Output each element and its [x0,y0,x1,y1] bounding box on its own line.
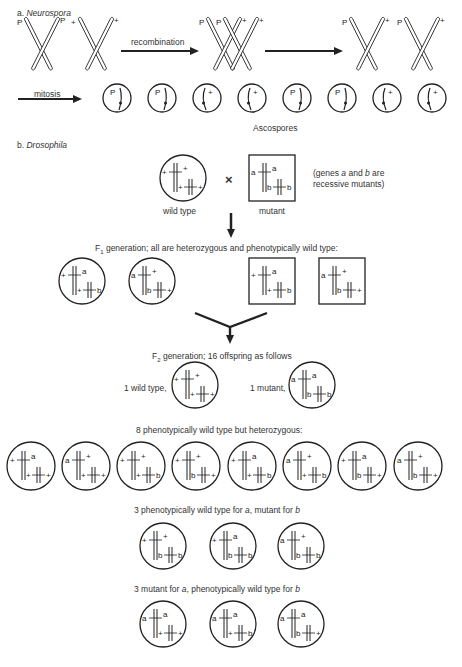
allele-b-right: b [156,471,161,480]
merge-lines [195,313,267,327]
cell-outline-circle [129,258,175,304]
f2-mutant-label: 1 mutant, [250,383,285,393]
heterozygous-individual: +ab+ [338,442,386,490]
allele-b-right: + [211,471,216,480]
parent-wild-type: ++++ [160,155,206,201]
mut-a-wt-b-individual: aa++ [140,601,186,647]
allele-a-left: a [286,456,291,465]
cell-outline-circle [278,601,324,647]
allele-b-right: + [377,471,382,480]
allele-b-right: b [287,183,292,192]
note-text: are [370,168,385,178]
heading-text: , phenotypically wild type for [186,584,295,594]
heterozygous-individual: a+b+ [394,442,442,490]
allele-b-left: b [296,551,301,560]
allele-a-left: a [321,271,326,280]
heterozygous-heading: 8 phenotypically wild type but heterozyg… [136,425,302,435]
allele-b-right: + [101,471,106,480]
allele-b-left: + [26,471,31,480]
cell-outline-circle [172,442,220,490]
allele-b-left: b [337,286,342,295]
allele-a-right: a [233,532,238,541]
allele-a-left: a [280,614,285,623]
cell-outline-circle [278,523,324,569]
drosophila-diagram: ++++aabb+a+ba+b++a+ba+b+++++aabb+a++a+++… [0,0,462,667]
f1-individual: +a+b [59,258,105,304]
allele-b-right: + [210,390,215,399]
allele-b-left: b [267,183,272,192]
f2-wild-type-label: 1 wild type, [124,383,167,393]
allele-b-right: + [46,471,51,480]
allele-a-left: + [120,456,125,465]
allele-b-left: b [296,629,301,638]
recessive-note-line1: (genes a and b are [313,168,384,179]
allele-a-right: a [272,164,277,173]
cell-outline-circle [140,523,186,569]
allele-a-left: a [131,271,136,280]
allele-a-right: a [252,452,257,461]
allele-b-right: + [178,629,183,638]
allele-a-left: + [61,271,66,280]
allele-a-left: + [175,456,180,465]
allele-b-right: b [248,629,253,638]
heading-text: 3 phenotypically wild type for [134,505,245,515]
allele-b-right: + [316,629,321,638]
allele-a-left: a [291,375,296,384]
f2-wild-type-individual: ++++ [172,362,218,408]
cell-outline-circle [210,601,256,647]
allele-b-left: + [302,471,307,480]
allele-a-left: a [280,536,285,545]
cross-arrow [227,213,235,238]
allele-a-right: + [307,452,312,461]
allele-b-left: + [247,471,252,480]
wt-a-mut-b-individual: +abb [210,523,256,569]
cell-outline-circle [140,601,186,647]
cell-outline-circle [228,442,276,490]
heading-gene-b: b [295,584,300,594]
allele-b-left: b [228,551,233,560]
allele-a-left: a [212,614,217,623]
allele-a-left: + [212,536,217,545]
cell-outline-circle [59,258,105,304]
allele-a-left: + [231,456,236,465]
cell-outline-circle [62,442,110,490]
f1-individual: a+b+ [319,258,365,304]
heterozygous-individual: +a+b [228,442,276,490]
cell-outline-circle [160,155,206,201]
cross-symbol: × [225,172,233,187]
mutant-label: mutant [259,206,285,216]
allele-b-left: + [267,286,272,295]
heterozygous-individual: a++b [283,442,331,490]
allele-a-right: a [301,610,306,619]
allele-b-left: + [81,471,86,480]
allele-a-left: + [142,536,147,545]
mut-a-wt-b-individual: aa+b [210,601,256,647]
wt-a-mut-b-individual: ++bb [140,523,186,569]
heterozygous-individual: +a++ [7,442,55,490]
allele-a-left: + [162,168,167,177]
f1-heading: F1 generation; all are heterozygous and … [95,243,338,255]
f2-mutant-individual: aabb [289,362,335,408]
f1-heading-text: generation; all are heterozygous and phe… [104,243,338,253]
f2-heading: F2 generation; 16 offspring as follows [152,351,292,363]
cell-outline-circle [172,362,218,408]
allele-b-right: b [287,286,292,295]
allele-a-right: a [272,267,277,276]
f1-individual: a+b+ [129,258,175,304]
allele-b-left: + [178,183,183,192]
allele-b-left: b [307,390,312,399]
heterozygous-individual: ++b+ [172,442,220,490]
allele-a-right: a [82,267,87,276]
allele-b-left: b [191,471,196,480]
arrow-head-icon [226,335,234,344]
allele-b-right: b [97,286,102,295]
note-text: and [346,168,365,178]
allele-b-left: b [357,471,362,480]
allele-b-left: b [158,551,163,560]
allele-b-right: + [167,286,172,295]
allele-b-left: + [228,629,233,638]
heading-text: 3 mutant for [134,584,182,594]
allele-b-left: + [77,286,82,295]
allele-a-left: a [397,456,402,465]
parent-mutant: aabb [249,155,295,201]
